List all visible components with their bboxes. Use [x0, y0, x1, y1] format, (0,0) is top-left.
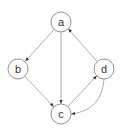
node-a-label: a: [58, 16, 65, 28]
graph-diagram: a b c d: [0, 0, 124, 129]
node-a: a: [51, 12, 71, 32]
node-d: d: [94, 59, 114, 79]
edge-d-to-a: [69, 29, 98, 62]
edge-c-to-d: [68, 76, 97, 107]
node-b-label: b: [15, 63, 21, 75]
node-d-label: d: [101, 63, 107, 75]
edge-a-to-b: [26, 30, 55, 62]
edge-d-to-c-curved: [72, 79, 105, 114]
edges-group: [25, 29, 104, 114]
node-c-label: c: [58, 108, 64, 120]
node-c: c: [51, 104, 71, 124]
edge-b-to-c: [25, 77, 54, 107]
node-b: b: [8, 59, 28, 79]
